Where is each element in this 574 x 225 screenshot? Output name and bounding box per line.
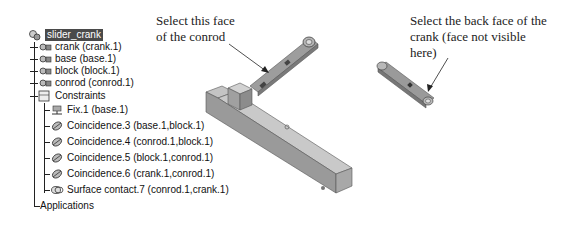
tree-connector	[30, 59, 38, 60]
tree-label: block (block.1)	[55, 65, 119, 77]
tree-item-coincidence-5[interactable]: Coincidence.5 (block.1,conrod.1)	[50, 152, 213, 164]
tree-item-constraints[interactable]: Constraints	[38, 90, 106, 102]
tree-connector	[30, 83, 38, 84]
tree-item-base[interactable]: base (base.1)	[38, 53, 116, 65]
crank-part[interactable]	[377, 62, 434, 108]
tree-item-conrod[interactable]: conrod (conrod.1)	[38, 77, 134, 89]
tree-label: Fix.1 (base.1)	[67, 104, 128, 116]
callout-line: crank (face not visible	[410, 29, 547, 45]
tree-connector	[30, 47, 38, 48]
tree-label: Applications	[40, 200, 94, 212]
tree-root-slider-crank[interactable]: slider_crank	[28, 29, 103, 41]
tree-item-coincidence-3[interactable]: Coincidence.3 (base.1,block.1)	[50, 120, 204, 132]
tree-label: Surface contact.7 (conrod.1,crank.1)	[67, 184, 229, 196]
constraints-folder-icon	[38, 90, 54, 102]
part-icon	[38, 53, 54, 65]
part-icon	[38, 41, 54, 53]
assembly-icon	[28, 29, 44, 41]
coincidence-icon	[50, 152, 66, 164]
tree-label: conrod (conrod.1)	[55, 77, 134, 89]
surface-contact-icon	[50, 184, 66, 196]
tree-item-crank[interactable]: crank (crank.1)	[38, 41, 122, 53]
tree-label: base (base.1)	[55, 53, 116, 65]
tree-label: Coincidence.4 (conrod.1,block.1)	[67, 136, 213, 148]
coincidence-icon	[50, 168, 66, 180]
callout-line: here)	[410, 45, 547, 61]
tree-label: crank (crank.1)	[55, 41, 122, 53]
tree-label: Coincidence.3 (base.1,block.1)	[67, 120, 204, 132]
tree-label: Constraints	[55, 90, 106, 102]
tree-item-surface-contact-7[interactable]: Surface contact.7 (conrod.1,crank.1)	[50, 184, 229, 196]
tree-label: Coincidence.5 (block.1,conrod.1)	[67, 152, 213, 164]
part-icon	[38, 65, 54, 77]
crank-callout-arrow	[427, 58, 448, 92]
tree-item-block[interactable]: block (block.1)	[38, 65, 119, 77]
tree-label: Coincidence.6 (crank.1,conrod.1)	[67, 168, 214, 180]
tree-connector	[30, 96, 38, 97]
tree-item-coincidence-4[interactable]: Coincidence.4 (conrod.1,block.1)	[50, 136, 213, 148]
fix-anchor-icon	[50, 104, 66, 116]
callout-line: Select the back face of the	[410, 13, 547, 29]
specification-tree[interactable]: slider_crank crank (crank.1) base (base.…	[0, 0, 240, 225]
crank-face-callout: Select the back face of the crank (face …	[410, 13, 547, 61]
tree-item-coincidence-6[interactable]: Coincidence.6 (crank.1,conrod.1)	[50, 168, 214, 180]
tree-item-applications[interactable]: Applications	[40, 200, 94, 212]
tree-label: slider_crank	[45, 29, 103, 41]
tree-connector	[34, 42, 35, 206]
part-icon	[38, 77, 54, 89]
tree-item-fix-1[interactable]: Fix.1 (base.1)	[50, 104, 128, 116]
tree-connector	[30, 71, 38, 72]
tree-connector	[44, 103, 45, 193]
coincidence-icon	[50, 136, 66, 148]
coincidence-icon	[50, 120, 66, 132]
